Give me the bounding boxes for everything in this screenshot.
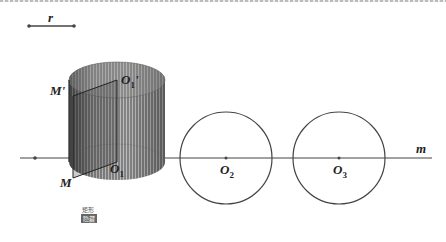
hide-button[interactable]: 隐藏 (81, 214, 97, 223)
label-o2: O2 (220, 163, 234, 180)
geometry-figure (0, 0, 446, 242)
label-m: M (60, 176, 72, 189)
label-line-m: m (416, 142, 426, 155)
caption-rectangle: 矩形 (82, 205, 94, 214)
label-o1: O1 (110, 162, 124, 179)
label-o1-prime: O1' (121, 73, 139, 90)
label-m-prime: M' (50, 84, 65, 97)
label-r: r (48, 11, 53, 24)
label-o3: O3 (333, 163, 347, 180)
